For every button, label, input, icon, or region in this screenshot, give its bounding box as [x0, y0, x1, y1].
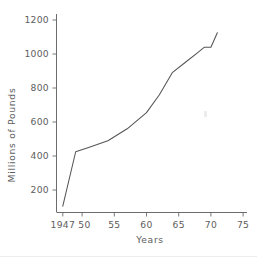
x-tick-label: 1947	[51, 219, 76, 230]
x-axis-title: Years	[135, 234, 164, 245]
y-tick-label: 1200	[24, 14, 49, 25]
line-chart: 200 400 600 800 1000 1200 1947 50 55 60 …	[0, 0, 257, 258]
x-tick-label: 55	[108, 219, 120, 230]
x-tick-label: 75	[237, 219, 249, 230]
scan-edge-artifact	[0, 256, 257, 257]
y-tick-label: 400	[31, 150, 49, 161]
x-tick-label: 70	[205, 219, 217, 230]
y-axis-title: Millions of Pounds	[6, 88, 17, 183]
x-tick-label: 60	[140, 219, 152, 230]
y-tick-label: 1000	[24, 48, 49, 59]
y-tick-label: 200	[31, 184, 49, 195]
chart-canvas: 200 400 600 800 1000 1200 1947 50 55 60 …	[0, 0, 257, 258]
x-tick-label: 65	[173, 219, 185, 230]
y-tick-label: 800	[31, 82, 49, 93]
y-tick-label: 600	[31, 116, 49, 127]
x-tick-label: 50	[78, 219, 90, 230]
scan-artifact	[204, 111, 207, 117]
data-series-line	[63, 33, 218, 206]
